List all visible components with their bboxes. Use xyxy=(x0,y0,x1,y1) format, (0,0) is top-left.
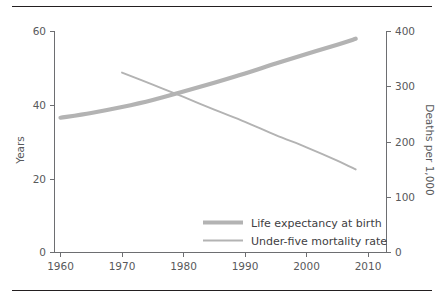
x-tick-label-2010: 2010 xyxy=(355,260,382,272)
right-tick-label-0: 0 xyxy=(395,246,402,258)
left-axis-title: Years xyxy=(14,136,26,165)
right-tick-label-100: 100 xyxy=(395,191,415,203)
series-under-five-mortality-rate xyxy=(122,73,356,170)
x-tick-label-2000: 2000 xyxy=(293,260,320,272)
x-tick-label-1980: 1980 xyxy=(170,260,197,272)
left-y-axis: 60 40 20 0 Years xyxy=(14,25,55,258)
x-axis: 1960 1970 1980 1990 2000 2010 xyxy=(47,253,386,273)
legend-label-life-expectancy: Life expectancy at birth xyxy=(251,217,382,230)
x-tick-label-1970: 1970 xyxy=(109,260,136,272)
left-tick-label-20: 20 xyxy=(33,173,46,185)
x-tick-label-1990: 1990 xyxy=(232,260,259,272)
figure-container: 60 40 20 0 Years 400 300 200 100 0 Death… xyxy=(0,0,446,296)
right-tick-label-200: 200 xyxy=(395,136,415,148)
right-axis-title: Deaths per 1,000 xyxy=(424,104,436,195)
left-tick-label-40: 40 xyxy=(33,99,46,111)
left-tick-label-0: 0 xyxy=(39,246,46,258)
right-tick-label-400: 400 xyxy=(395,25,415,37)
legend-label-under-five-mortality: Under-five mortality rate xyxy=(251,235,387,248)
right-tick-label-300: 300 xyxy=(395,80,415,92)
x-tick-label-1960: 1960 xyxy=(47,260,74,272)
left-tick-label-60: 60 xyxy=(33,25,46,37)
line-chart: 60 40 20 0 Years 400 300 200 100 0 Death… xyxy=(0,0,446,296)
legend: Life expectancy at birth Under-five mort… xyxy=(203,217,387,248)
right-y-axis: 400 300 200 100 0 Deaths per 1,000 xyxy=(387,25,437,258)
series-life-expectancy-at-birth xyxy=(61,39,356,118)
